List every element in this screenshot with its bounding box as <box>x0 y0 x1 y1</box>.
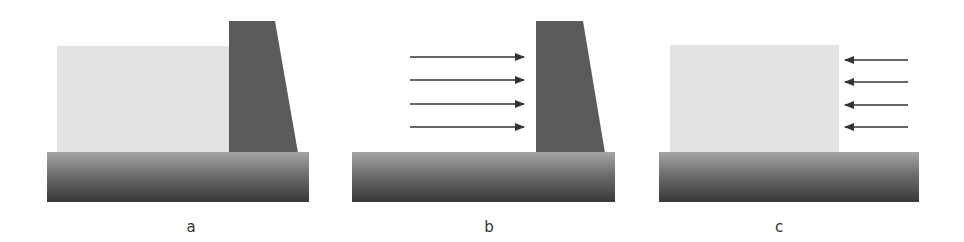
panel-label-b: b <box>479 218 499 236</box>
dam <box>229 21 298 153</box>
water-body <box>57 46 230 153</box>
pressure-arrows-left <box>845 60 908 127</box>
panel-b <box>352 21 615 202</box>
ground <box>352 152 615 202</box>
panel-c <box>659 45 919 202</box>
pressure-arrows-right <box>410 57 524 127</box>
dam <box>536 21 605 153</box>
water-body <box>670 45 839 153</box>
ground <box>47 152 309 202</box>
panel-label-a: a <box>181 218 201 236</box>
dam-pressure-diagram <box>0 0 964 242</box>
panel-a <box>47 21 309 202</box>
ground <box>659 152 919 202</box>
panel-label-c: c <box>769 218 789 236</box>
